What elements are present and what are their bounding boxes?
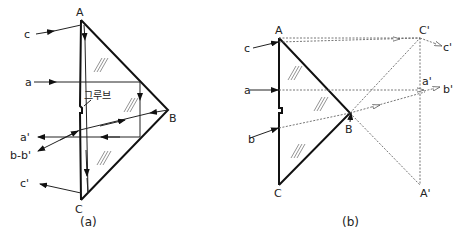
prism-a-outline xyxy=(80,20,168,200)
output-a-prime-label: a' xyxy=(20,131,30,144)
input-a-label: a xyxy=(25,76,32,89)
input-c-label: c xyxy=(24,28,30,41)
vertex-b-label: B xyxy=(169,112,177,125)
output-c-prime-label-b: c' xyxy=(443,41,452,54)
vertex-c-prime-label: C' xyxy=(419,24,430,37)
ray-c-b xyxy=(253,42,278,48)
input-a-label-b: a xyxy=(244,84,251,97)
pointer-b xyxy=(350,113,351,122)
vertex-c-label-b: C xyxy=(274,187,282,200)
prism-b-outline xyxy=(279,38,350,185)
figure-b: A B C C' A' c a b c' a' b' (b) xyxy=(244,24,453,229)
virtual-image-lines xyxy=(279,38,442,185)
output-c-prime-label: c' xyxy=(20,177,29,190)
caption-b: (b) xyxy=(342,215,359,229)
vertex-a-prime-label: A' xyxy=(420,187,431,200)
figure-a: A B C c a a' b-b' c' 그루브 (a) xyxy=(10,6,177,229)
prism-diagram: A B C c a a' b-b' c' 그루브 (a) xyxy=(0,0,463,240)
groove-label: 그루브 xyxy=(84,90,111,101)
output-b-b-prime-label: b-b' xyxy=(10,149,31,162)
output-b-prime-label-b: b' xyxy=(443,83,453,96)
vertex-b-label-b: B xyxy=(345,123,353,136)
vertex-a-label-b: A xyxy=(275,24,283,37)
input-c-label-b: c xyxy=(244,42,250,55)
input-b-label-b: b xyxy=(248,133,255,146)
output-a-prime-label-b: a' xyxy=(422,75,432,88)
vertex-a-label: A xyxy=(76,6,84,19)
glass-hatch-b xyxy=(288,66,328,158)
caption-a: (a) xyxy=(80,215,97,229)
